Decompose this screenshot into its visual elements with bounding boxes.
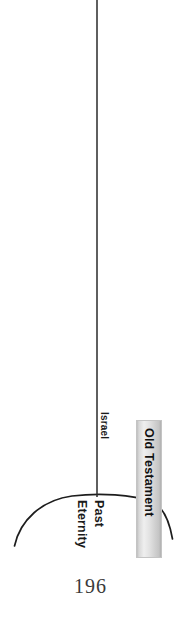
label-old-testament: Old Testament — [142, 428, 156, 517]
page-canvas: Israel Eternity Past Old Testament 196 — [0, 0, 181, 625]
label-past: Past — [92, 500, 106, 527]
timeline-diagram — [0, 0, 181, 625]
page-number: 196 — [0, 575, 181, 598]
label-israel: Israel — [99, 412, 110, 439]
label-eternity: Eternity — [75, 500, 89, 548]
